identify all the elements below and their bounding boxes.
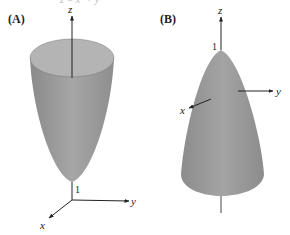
x-axis-a — [49, 200, 72, 218]
z-axis-label-a: z — [67, 3, 73, 15]
panel-b-figure: z 1 y x — [179, 4, 281, 213]
x-axis-label-b: x — [179, 104, 185, 116]
diagram-canvas: z 1 y x z 1 y x — [0, 0, 290, 235]
vertex-label-b: 1 — [212, 41, 217, 52]
z-axis-label-b: z — [217, 4, 223, 16]
y-axis-a — [72, 200, 129, 201]
y-axis-label-b: y — [275, 85, 281, 97]
vertex-label-a: 1 — [75, 184, 80, 195]
x-axis-label-a: x — [39, 219, 45, 231]
panel-a-figure: z 1 y x — [30, 3, 136, 231]
paraboloid-b-surface — [181, 50, 264, 196]
y-axis-label-a: y — [130, 195, 136, 207]
